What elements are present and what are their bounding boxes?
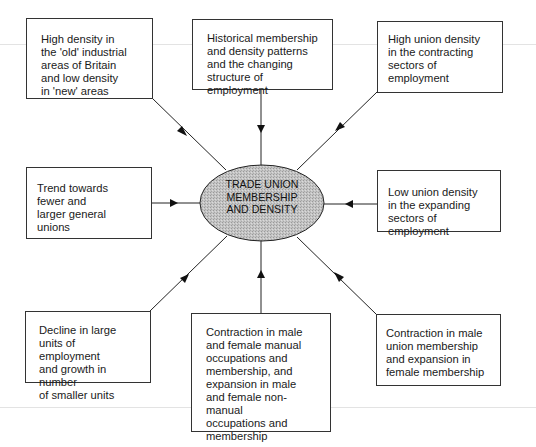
edge-bottom-center — [257, 241, 265, 313]
arrowhead-icon — [257, 125, 265, 133]
node-middle-left: Trend towards fewer and larger general u… — [26, 167, 152, 239]
diagram-canvas: TRADE UNION MEMBERSHIP AND DENSITY High … — [0, 0, 536, 447]
edge-middle-left — [151, 199, 201, 207]
node-bottom-left: Decline in large units of employment and… — [25, 311, 151, 383]
arrowhead-icon — [334, 272, 344, 282]
arrowhead-icon — [170, 199, 178, 207]
edge-middle-right — [323, 200, 377, 208]
arrowhead-icon — [335, 122, 345, 131]
edge-top-center — [257, 89, 265, 165]
edge-top-right — [297, 92, 377, 170]
edge-bottom-right — [297, 237, 376, 314]
edge-top-left — [152, 98, 226, 170]
edge-bottom-left — [150, 236, 227, 311]
node-top-right: High union density in the contracting se… — [377, 21, 503, 93]
arrowhead-icon — [180, 274, 189, 283]
arrowhead-icon — [257, 270, 265, 278]
center-label: TRADE UNION MEMBERSHIP AND DENSITY — [200, 178, 324, 216]
node-bottom-right: Contraction in male union membership and… — [376, 314, 501, 386]
arrowhead-icon — [345, 200, 353, 208]
node-bottom-center: Contraction in male and female manual oc… — [191, 313, 331, 432]
node-middle-right: Low union density in the expanding secto… — [377, 170, 501, 232]
node-top-center: Historical membership and density patter… — [192, 19, 333, 90]
node-top-left: High density in the 'old' industrial are… — [26, 18, 153, 99]
